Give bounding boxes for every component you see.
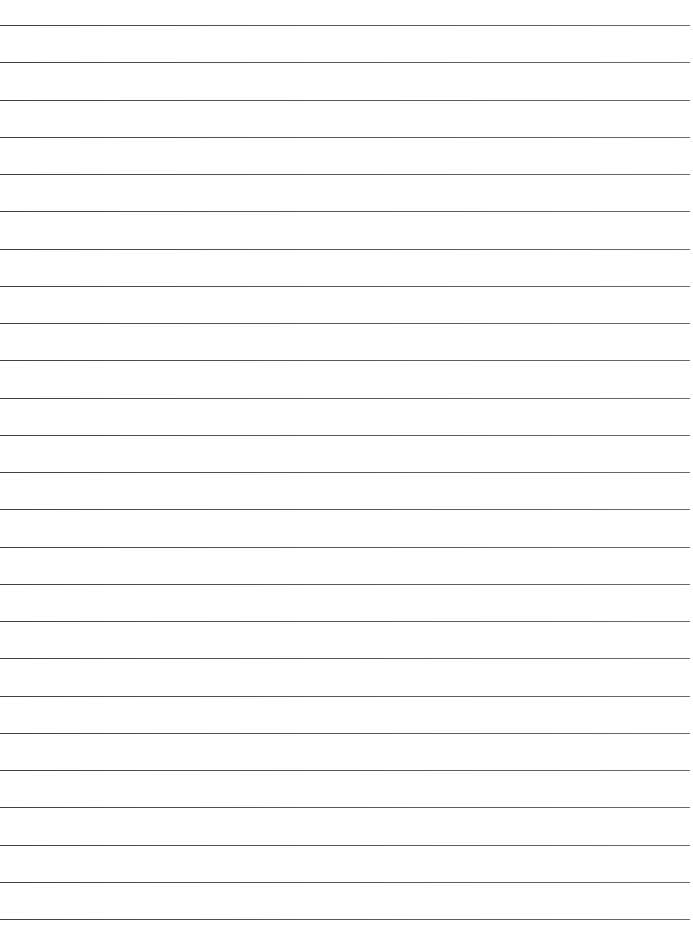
writing-line-slot [0,323,693,360]
writing-line-slot [0,509,693,547]
writing-line-slot [0,845,693,882]
writing-line-slot [0,398,693,435]
writing-line-slot [0,770,693,807]
writing-line-slot [0,696,693,733]
writing-line-slot [0,211,693,249]
writing-line-slot [0,25,693,62]
writing-line-slot [0,100,693,137]
writing-line-slot [0,472,693,509]
rule-line [0,919,690,920]
writing-line-slot [0,0,693,25]
writing-line-slot [0,435,693,472]
writing-line-slot [0,286,693,323]
writing-line-slot [0,174,693,211]
writing-line-slot [0,733,693,770]
writing-line-slot [0,807,693,845]
writing-line-slot [0,621,693,658]
writing-line-slot [0,584,693,621]
writing-line-slot [0,137,693,174]
writing-line-slot [0,62,693,100]
writing-line-slot [0,547,693,584]
writing-line-slot [0,658,693,696]
writing-line-slot [0,882,693,919]
ruled-paper-page [0,0,693,928]
writing-line-slot [0,249,693,286]
writing-line-slot [0,360,693,398]
